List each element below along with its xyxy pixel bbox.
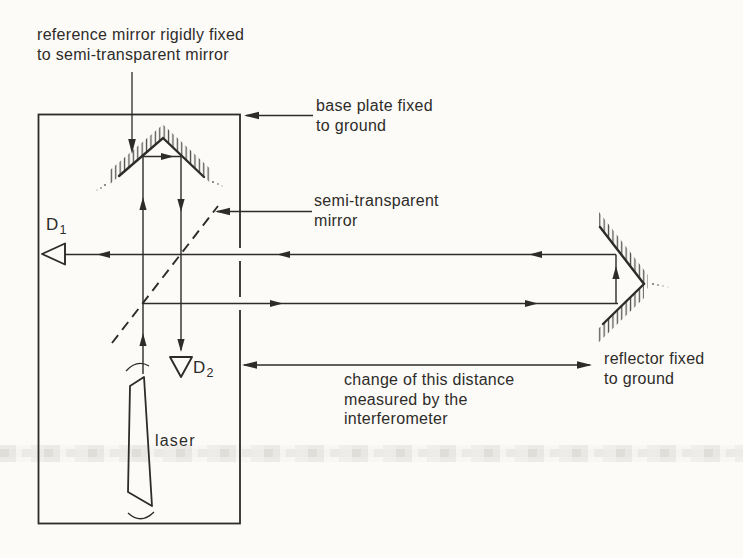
label-reflector: reflector fixed to ground xyxy=(604,349,705,388)
label-detector-1: D1 xyxy=(46,215,66,235)
hatch-fade-dot xyxy=(662,285,664,287)
arrowhead-right xyxy=(270,300,283,307)
detector-2 xyxy=(170,357,192,377)
arrowhead-left xyxy=(277,251,290,258)
arrowhead-left xyxy=(215,208,230,216)
arrowhead-up xyxy=(612,266,619,279)
retroreflector-hatch-upper xyxy=(599,212,648,289)
laser-end-arc-top xyxy=(126,363,149,371)
detector-2-subscript: 2 xyxy=(207,366,214,380)
laser-end-arc-bottom xyxy=(128,512,154,519)
reference-mirror-hatch-left xyxy=(110,125,163,185)
beam-splitter-dashed-line xyxy=(112,206,218,343)
reference-mirror-hatch-right xyxy=(163,125,211,184)
arrowhead-up xyxy=(139,197,146,210)
hatch-fade-dot xyxy=(652,283,654,285)
beam-paths xyxy=(65,153,620,374)
detector-1 xyxy=(42,244,65,265)
interferometer-figure: reference mirror rigidly fixed to semi-t… xyxy=(0,0,743,558)
laser-body xyxy=(128,377,152,506)
hatch-fade-dot xyxy=(212,181,214,183)
label-semi-transparent-mirror: semi-transparent mirror xyxy=(314,191,439,230)
detector-1-triangle xyxy=(42,244,65,265)
arrowhead-right xyxy=(525,300,538,307)
arrowhead-down xyxy=(177,339,184,352)
label-base-plate: base plate fixed to ground xyxy=(316,96,433,135)
hatch-fade-dot xyxy=(667,286,668,287)
hatch-fade-dot xyxy=(221,185,222,186)
detector-1-subscript: 1 xyxy=(60,223,67,237)
detector-1-symbol: D xyxy=(46,215,59,234)
hatch-fade-dot xyxy=(104,184,106,186)
arrowhead-right xyxy=(161,153,174,160)
hatch-fade-dot xyxy=(100,187,102,189)
arrowhead-left xyxy=(244,112,259,120)
label-laser: laser xyxy=(155,431,196,451)
reference-mirror xyxy=(96,125,222,191)
dimension-line xyxy=(242,361,592,369)
callout-base-plate xyxy=(244,112,313,120)
retroreflector-hatch-lower xyxy=(597,284,644,344)
base-plate xyxy=(39,115,247,524)
detector-2-symbol: D xyxy=(193,358,206,377)
semi-transparent-mirror xyxy=(112,206,218,343)
hatch-fade-dot xyxy=(96,189,97,190)
hatch-fade-dot xyxy=(657,284,659,286)
label-detector-2: D2 xyxy=(193,358,213,378)
detector-2-triangle xyxy=(170,357,192,377)
callout-reference-mirror xyxy=(128,72,136,154)
hatch-fade-dot xyxy=(217,183,219,185)
arrowhead-down xyxy=(177,199,184,212)
arrowhead-left xyxy=(242,361,257,369)
arrowhead-right xyxy=(577,361,592,369)
label-measured-distance: change of this distance measured by the … xyxy=(344,370,515,429)
label-reference-mirror: reference mirror rigidly fixed to semi-t… xyxy=(37,25,244,64)
callout-semi-transparent xyxy=(215,208,312,216)
arrowhead-up xyxy=(139,333,146,346)
arrowhead-left xyxy=(529,251,542,258)
arrowhead-left xyxy=(97,251,110,258)
laser-tube xyxy=(126,363,154,518)
interferometer-diagram xyxy=(0,0,743,558)
retroreflector xyxy=(597,212,669,344)
